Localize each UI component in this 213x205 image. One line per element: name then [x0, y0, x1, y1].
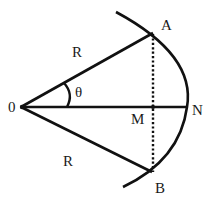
label-point-n: N	[192, 102, 203, 118]
geometry-diagram: 0 A B M N R R θ	[0, 0, 213, 205]
label-point-m: M	[131, 111, 144, 127]
angle-theta-arc	[64, 83, 70, 107]
label-point-a: A	[161, 17, 172, 33]
label-radius-upper: R	[72, 44, 82, 60]
point-o-dot	[20, 105, 24, 109]
label-origin: 0	[8, 99, 16, 115]
radius-oa	[21, 33, 153, 107]
label-radius-lower: R	[63, 153, 73, 169]
point-m-dot	[151, 105, 155, 109]
label-angle-theta: θ	[75, 84, 82, 100]
diagram-svg: 0 A B M N R R θ	[0, 0, 213, 205]
label-point-b: B	[155, 180, 165, 196]
